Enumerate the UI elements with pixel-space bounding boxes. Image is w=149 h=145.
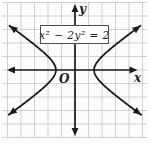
x-axis-left-arrow: [7, 67, 15, 74]
graph-figure: xyO x² − 2y² = 2: [0, 0, 149, 145]
y-axis-up-arrow: [72, 4, 79, 12]
equation-box: x² − 2y² = 2: [40, 25, 109, 44]
x-axis-label: x: [133, 71, 142, 85]
origin-label: O: [59, 72, 70, 86]
hyperbola-graph: xyO: [0, 0, 149, 145]
y-axis-label: y: [78, 2, 87, 16]
y-axis-down-arrow: [72, 128, 79, 136]
equation-label: x² − 2y² = 2: [39, 29, 110, 41]
